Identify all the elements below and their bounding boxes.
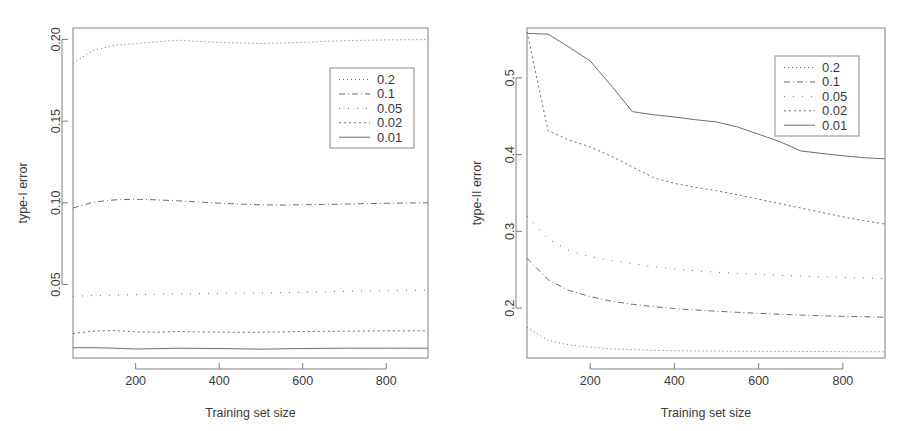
chart-panel-type-ii-error: 0.20.30.40.5200400600800Training set siz… — [457, 0, 914, 431]
legend-label-0-2: 0.2 — [822, 60, 840, 75]
y-tick-label: 0.05 — [49, 272, 63, 296]
series-line-0-01 — [73, 348, 428, 349]
x-tick-label: 200 — [125, 374, 146, 388]
type-ii-error-plot: 0.20.30.40.5200400600800Training set siz… — [457, 0, 915, 431]
y-tick-label: 0.5 — [503, 69, 517, 86]
legend-label-0-1: 0.1 — [822, 74, 840, 89]
x-tick-label: 600 — [748, 374, 769, 388]
x-tick-label: 400 — [664, 374, 685, 388]
legend-label-0-02: 0.02 — [822, 103, 847, 118]
x-tick-label: 800 — [832, 374, 853, 388]
y-tick-label: 0.3 — [503, 223, 517, 240]
y-tick-label: 0.4 — [503, 146, 517, 163]
x-tick-label: 600 — [292, 374, 313, 388]
series-line-0-1 — [73, 199, 428, 208]
legend-label-0-1: 0.1 — [377, 86, 395, 101]
series-line-0-2 — [73, 40, 428, 64]
y-tick-label: 0.10 — [49, 191, 63, 215]
legend-label-0-05: 0.05 — [377, 101, 402, 116]
series-line-0-05 — [527, 216, 885, 279]
y-tick-label: 0.2 — [503, 299, 517, 316]
y-tick-label: 0.15 — [49, 109, 63, 133]
y-axis-title: type-I error — [16, 162, 30, 223]
y-axis-title: type-II error — [470, 161, 484, 226]
legend-label-0-01: 0.01 — [822, 118, 847, 133]
legend-label-0-2: 0.2 — [377, 72, 395, 87]
x-tick-label: 800 — [376, 374, 397, 388]
x-axis-title: Training set size — [661, 406, 752, 420]
legend-label-0-01: 0.01 — [377, 130, 402, 145]
type-i-error-plot: 0.050.100.150.20200400600800Training set… — [0, 0, 457, 431]
chart-panel-type-i-error: 0.050.100.150.20200400600800Training set… — [0, 0, 457, 431]
legend-label-0-05: 0.05 — [822, 89, 847, 104]
series-line-0-05 — [73, 290, 428, 296]
x-tick-label: 400 — [209, 374, 230, 388]
chart-legend: 0.20.10.050.020.01 — [775, 56, 859, 136]
series-line-0-2 — [527, 327, 885, 352]
x-tick-label: 200 — [580, 374, 601, 388]
x-axis-title: Training set size — [205, 406, 296, 420]
chart-legend: 0.20.10.050.020.01 — [330, 68, 414, 148]
figure-container: 0.050.100.150.20200400600800Training set… — [0, 0, 915, 431]
legend-label-0-02: 0.02 — [377, 115, 402, 130]
series-line-0-1 — [527, 258, 885, 317]
series-line-0-02 — [73, 331, 428, 334]
y-tick-label: 0.20 — [49, 27, 63, 51]
